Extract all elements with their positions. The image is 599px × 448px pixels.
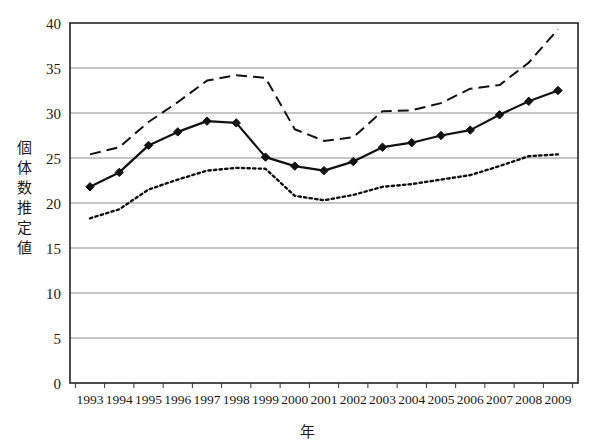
x-tick-label: 1994 [106, 392, 133, 407]
y-tick-label: 35 [46, 61, 61, 77]
y-axis-title-char: 個 [17, 139, 32, 157]
x-tick-label: 2008 [515, 392, 542, 407]
population-estimate-chart: 0510152025303540 19931994199519961997199… [0, 0, 599, 448]
y-tick-label: 40 [46, 16, 61, 32]
x-tick-label: 2004 [398, 392, 425, 407]
y-axis-title-char: 数 [17, 179, 32, 197]
y-axis-title-char: 推 [17, 199, 32, 217]
x-tick-label: 2005 [428, 392, 455, 407]
x-tick-label: 1993 [77, 392, 104, 407]
chart-background [0, 0, 599, 448]
x-tick-label: 1998 [223, 392, 250, 407]
y-tick-label: 0 [54, 376, 62, 392]
y-tick-label: 20 [46, 196, 61, 212]
x-axis-title: 年 [300, 423, 315, 441]
y-tick-label: 5 [54, 331, 62, 347]
x-tick-label: 1999 [252, 392, 279, 407]
chart-canvas: 0510152025303540 19931994199519961997199… [0, 0, 599, 448]
x-tick-label: 1995 [135, 392, 162, 407]
y-tick-label: 10 [46, 286, 61, 302]
x-tick-label: 1997 [194, 392, 221, 407]
x-tick-label: 1996 [164, 392, 191, 407]
x-tick-label: 2001 [311, 392, 338, 407]
x-tick-label: 2007 [486, 392, 513, 407]
x-tick-label: 2009 [545, 392, 572, 407]
y-tick-label: 30 [46, 106, 61, 122]
x-tick-label: 2000 [281, 392, 308, 407]
y-tick-label: 15 [46, 241, 61, 257]
y-tick-label: 25 [46, 151, 61, 167]
x-tick-label: 2006 [457, 392, 484, 407]
y-axis-title-char: 体 [17, 159, 32, 177]
y-axis-title-char: 定 [17, 219, 32, 237]
x-tick-label: 2003 [369, 392, 396, 407]
x-tick-labels-group: 1993199419951996199719981999200020012002… [77, 392, 572, 407]
x-tick-label: 2002 [340, 392, 367, 407]
y-axis-title-char: 値 [17, 239, 32, 257]
